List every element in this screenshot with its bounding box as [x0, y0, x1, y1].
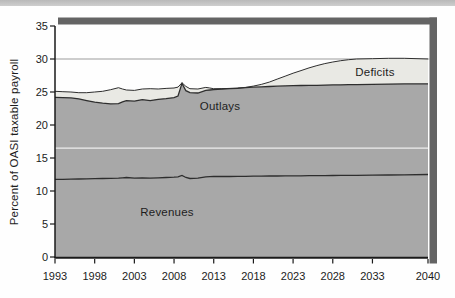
- x-tick-label-2033: 2033: [360, 270, 384, 282]
- x-tick-label-2028: 2028: [321, 270, 345, 282]
- deficits-area-label: Deficits: [355, 66, 394, 78]
- outlays-area-label: Outlays: [200, 100, 240, 112]
- y-axis-title: Percent of OASI taxable payroll: [8, 59, 20, 226]
- x-tick-label-2013: 2013: [201, 270, 225, 282]
- y-tick-label-15: 15: [36, 152, 48, 164]
- chart-canvas: 0510152025303519931998200320082013201820…: [0, 0, 455, 298]
- y-tick-label-5: 5: [42, 218, 48, 230]
- x-tick-label-2018: 2018: [241, 270, 265, 282]
- y-tick-label-20: 20: [36, 119, 48, 131]
- x-tick-label-2023: 2023: [281, 270, 305, 282]
- oasi-payroll-chart: 0510152025303519931998200320082013201820…: [0, 0, 455, 298]
- frame-shadow-top: [58, 18, 437, 25]
- x-tick-label-1993: 1993: [43, 270, 67, 282]
- revenues-area-label: Revenues: [140, 206, 193, 218]
- frame-shadow-right: [430, 18, 438, 264]
- y-tick-label-35: 35: [36, 20, 48, 32]
- y-tick-label-30: 30: [36, 53, 48, 65]
- y-tick-label-0: 0: [42, 251, 48, 263]
- x-tick-label-2008: 2008: [162, 270, 186, 282]
- y-tick-label-10: 10: [36, 185, 48, 197]
- figure-page: 0510152025303519931998200320082013201820…: [0, 0, 455, 298]
- x-tick-label-2003: 2003: [122, 270, 146, 282]
- y-tick-label-25: 25: [36, 86, 48, 98]
- x-tick-label-2040: 2040: [416, 270, 440, 282]
- x-tick-label-1998: 1998: [82, 270, 106, 282]
- outlays-revenues-area: [55, 83, 428, 257]
